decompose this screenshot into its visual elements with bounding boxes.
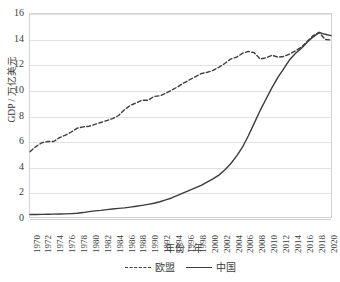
series-line-中国 [30, 32, 331, 214]
y-axis-tick-labels: 0246810121416 [0, 13, 27, 218]
y-tick-label: 2 [19, 187, 24, 197]
legend-line-icon [125, 267, 151, 268]
y-tick-label: 12 [14, 59, 24, 69]
y-tick-label: 16 [14, 8, 24, 18]
series-lines [30, 14, 331, 217]
plot-area [29, 13, 332, 218]
y-tick-label: 10 [14, 85, 24, 95]
x-axis-title: 年份 / 年 [0, 243, 340, 255]
y-tick-label: 14 [14, 34, 24, 44]
legend-line-icon [186, 267, 212, 268]
chart-legend: 欧盟中国 [0, 262, 340, 273]
y-tick-label: 0 [19, 213, 24, 223]
legend-label: 中国 [216, 262, 236, 273]
series-line-欧盟 [30, 32, 331, 151]
legend-item-欧盟[interactable]: 欧盟 [125, 262, 175, 273]
gdp-line-chart: GDP / 万亿美元 0246810121416 197019721974197… [0, 0, 340, 282]
y-tick-label: 4 [19, 162, 24, 172]
legend-label: 欧盟 [155, 262, 175, 273]
y-tick-label: 8 [19, 111, 24, 121]
y-tick-label: 6 [19, 136, 24, 146]
legend-item-中国[interactable]: 中国 [186, 262, 236, 273]
